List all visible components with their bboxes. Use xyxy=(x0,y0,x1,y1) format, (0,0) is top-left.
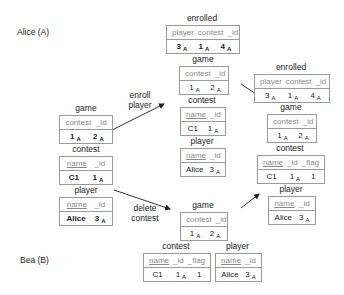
cell: 3A xyxy=(295,213,311,223)
merge-arrow-bottom xyxy=(241,194,259,208)
delete-contest-label: delete contest xyxy=(125,203,165,223)
cell: 3A xyxy=(241,270,257,280)
merged-game-table: contest_id 1A2A xyxy=(267,114,317,143)
col-header: _flag xyxy=(300,158,321,167)
cell: C1 xyxy=(186,124,200,133)
bea-contest-table: name_id_flag C11A1 xyxy=(143,253,211,282)
col-header: _id xyxy=(213,69,228,78)
alice-game-table: contest_id 1A2A xyxy=(179,66,229,95)
cell: 1A xyxy=(185,83,201,93)
col-header: _id xyxy=(226,28,241,37)
col-header: contest xyxy=(284,77,314,86)
col-header: contest xyxy=(63,118,93,127)
user-label-bea: Bea (B) xyxy=(20,255,49,265)
cell: 1A xyxy=(88,173,105,183)
cell: 4A xyxy=(306,91,322,101)
alice-player-title: player xyxy=(180,136,224,146)
cell: 1A xyxy=(286,172,302,182)
col-header: _id xyxy=(208,110,223,119)
col-header: _id xyxy=(243,256,258,265)
initial-game-table: contest_id 1A2A xyxy=(59,115,113,144)
cell: 3A xyxy=(91,214,108,224)
initial-contest-table: name_id C11A xyxy=(59,156,113,185)
delete-line1: delete xyxy=(125,203,165,213)
alice-contest-table: name_id C11A xyxy=(180,107,226,136)
alice-contest-title: contest xyxy=(180,95,224,105)
initial-contest-title: contest xyxy=(60,144,112,154)
alice-enrolled-table: playercontest_id 3A1A4A xyxy=(166,25,240,54)
merged-enrolled-title: enrolled xyxy=(254,62,328,72)
bea-player-table: name_id Alice3A xyxy=(215,253,262,282)
cell: Alice xyxy=(184,165,205,174)
col-header: name xyxy=(184,110,208,119)
merged-player-table: name_id Alice3A xyxy=(268,196,316,225)
col-header: name xyxy=(272,199,296,208)
cell: Alice xyxy=(273,213,294,222)
merged-game-title: game xyxy=(267,102,315,112)
col-header: name xyxy=(65,200,89,209)
cell: 1 xyxy=(309,172,317,181)
cell: 3A xyxy=(173,42,190,52)
col-header: name xyxy=(184,151,208,160)
col-header: name xyxy=(261,158,285,167)
cell: 1A xyxy=(195,42,212,52)
merged-contest-table: name_id_flag C11A1 xyxy=(257,155,325,184)
cell: C1 xyxy=(67,173,81,182)
cell: 1A xyxy=(204,124,220,134)
col-header: player xyxy=(170,28,196,37)
col-header: name xyxy=(65,159,89,168)
cell: 2A xyxy=(89,132,106,142)
col-header: _flag xyxy=(186,256,207,265)
cell: 1A xyxy=(66,132,83,142)
col-header: _id xyxy=(208,151,223,160)
enroll-line2: player xyxy=(120,100,160,110)
cell: Alice xyxy=(65,214,88,223)
cell: C1 xyxy=(150,270,164,279)
cell: 1A xyxy=(186,229,202,239)
enroll-player-label: enroll player xyxy=(120,90,160,110)
user-label-alice: Alice (A) xyxy=(17,27,49,37)
col-header: _id xyxy=(92,159,107,168)
merged-player-title: player xyxy=(268,184,314,194)
col-header: contest xyxy=(184,215,214,224)
cell: 4A xyxy=(217,42,234,52)
alice-player-table: name_id Alice3A xyxy=(180,148,226,177)
col-header: player xyxy=(258,77,284,86)
cell: Alice xyxy=(219,270,240,279)
alice-game-title: game xyxy=(179,54,227,64)
col-header: _id xyxy=(92,200,107,209)
initial-player-title: player xyxy=(60,185,112,195)
delete-line2: contest xyxy=(125,213,165,223)
col-header: contest xyxy=(183,69,213,78)
initial-player-table: name_id Alice3A xyxy=(59,197,113,226)
col-header: _id xyxy=(301,117,316,126)
col-header: _id xyxy=(285,158,300,167)
cell: 2A xyxy=(206,83,222,93)
col-header: _id xyxy=(214,215,229,224)
cell: C1 xyxy=(264,172,278,181)
col-header: contest xyxy=(196,28,226,37)
merged-contest-title: contest xyxy=(257,143,323,153)
initial-game-title: game xyxy=(60,103,112,113)
enroll-line1: enroll xyxy=(120,90,160,100)
merged-enrolled-table: playercontest_id 3A1A4A xyxy=(254,74,330,103)
cell: 2A xyxy=(294,131,310,141)
col-header: name xyxy=(219,256,243,265)
col-header: name xyxy=(147,256,171,265)
bea-game-table: contest_id 1A2A xyxy=(180,212,228,241)
col-header: _id xyxy=(314,77,329,86)
col-header: _id xyxy=(171,256,186,265)
col-header: contest xyxy=(271,117,301,126)
cell: 1A xyxy=(172,270,188,280)
cell: 1A xyxy=(284,91,300,101)
bea-player-title: player xyxy=(215,241,260,251)
bea-contest-title: contest xyxy=(143,241,209,251)
cell: 3A xyxy=(205,165,221,175)
col-header: _id xyxy=(297,199,312,208)
alice-enrolled-title: enrolled xyxy=(166,13,238,23)
cell: 2A xyxy=(206,229,222,239)
bea-game-title: game xyxy=(180,200,226,210)
cell: 1 xyxy=(195,270,203,279)
col-header: _id xyxy=(94,118,109,127)
cell: 3A xyxy=(261,91,277,101)
